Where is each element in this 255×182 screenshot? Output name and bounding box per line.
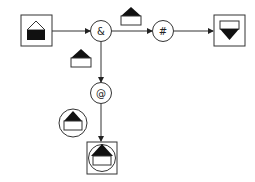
circle-house-icon [89,144,116,172]
svg-text:@: @ [96,88,106,99]
svg-text:&: & [97,26,105,37]
flow-diagram: & # @ [0,0,255,182]
operator-hash[interactable]: # [153,21,174,42]
svg-text:#: # [159,26,167,37]
operator-at[interactable]: @ [91,83,112,104]
circle-house-icon [59,109,87,137]
house-filled-roof-icon [121,7,141,25]
output-box-right-node[interactable] [214,15,245,46]
house-filled-roof-icon [71,49,91,67]
output-box-bottom-node[interactable] [87,142,117,174]
input-box-node[interactable] [21,15,52,46]
operator-and[interactable]: & [91,21,112,42]
